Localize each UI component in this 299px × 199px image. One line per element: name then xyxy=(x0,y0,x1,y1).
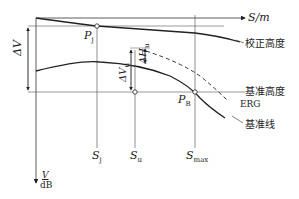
y-axis-label-num: V xyxy=(42,171,49,180)
point-pj xyxy=(95,24,99,28)
x-axis-label: S/m xyxy=(248,12,270,23)
delta-v-label: ΔV xyxy=(12,40,23,56)
y-axis-label-den: dB xyxy=(40,181,52,190)
erg-curve xyxy=(146,51,227,100)
label-pj: Pj xyxy=(84,30,94,44)
point-su xyxy=(133,90,137,94)
delta-hu-label: ΔHu xyxy=(138,44,151,64)
label-corrected-height: 校正高度 xyxy=(245,39,285,49)
label-reference-line: 基准线 xyxy=(245,120,275,130)
label-pb: PB xyxy=(178,94,191,108)
corrected-height-curve xyxy=(36,18,240,42)
label-erg: ERG xyxy=(240,100,261,109)
tick-smax: Smax xyxy=(186,150,208,164)
label-reference-height: 基准高度 xyxy=(245,87,285,97)
tick-su: Su xyxy=(130,150,142,164)
delta-vu-label: ΔVu xyxy=(118,63,131,82)
tick-sj: Sj xyxy=(92,150,102,164)
point-pb xyxy=(193,90,197,94)
